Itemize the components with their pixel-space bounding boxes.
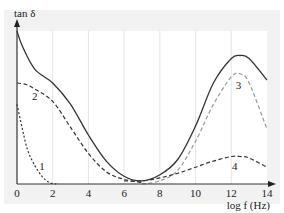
x-axis-label: log f (Hz) bbox=[227, 199, 271, 212]
curve-label-3: 3 bbox=[236, 79, 242, 91]
curve-label-1: 1 bbox=[39, 160, 45, 172]
x-tick-label: 6 bbox=[121, 187, 127, 199]
x-tick-label: 14 bbox=[262, 187, 274, 199]
x-tick-label: 4 bbox=[86, 187, 92, 199]
x-tick-label: 8 bbox=[157, 187, 163, 199]
x-tick-label: 0 bbox=[14, 187, 20, 199]
x-tick-label: 10 bbox=[190, 187, 202, 199]
curve-label-4: 4 bbox=[232, 160, 238, 172]
x-tick-label: 2 bbox=[50, 187, 56, 199]
y-axis-label: tan δ bbox=[14, 7, 35, 19]
plot-area bbox=[17, 31, 267, 184]
curve-label-2: 2 bbox=[32, 90, 38, 102]
loss-tangent-chart: 02468101214 tan δ log f (Hz) 1234 bbox=[0, 0, 284, 213]
x-tick-label: 12 bbox=[226, 187, 237, 199]
